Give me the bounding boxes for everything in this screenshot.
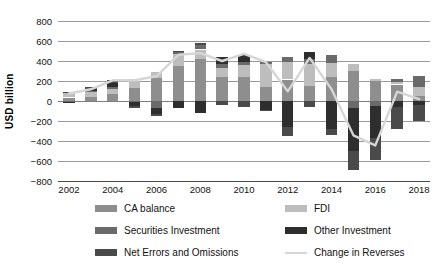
bar-column[interactable]	[216, 21, 227, 181]
bar-column[interactable]	[173, 21, 184, 181]
legend-item-sec[interactable]: Securities Investment	[95, 225, 220, 236]
bar-segment	[63, 92, 74, 93]
y-tick-label: −200	[6, 116, 52, 127]
y-tick-label: 400	[6, 56, 52, 67]
bar-segment	[85, 97, 96, 101]
chart-legend: CA balanceFDISecurities InvestmentOther …	[95, 203, 425, 265]
bar-segment	[216, 64, 227, 68]
bar-segment	[348, 71, 359, 101]
bar-column[interactable]	[129, 21, 140, 181]
x-tick-label: 2014	[321, 184, 342, 195]
bar-segment	[173, 54, 184, 66]
y-tick-label: 800	[6, 16, 52, 27]
bar-segment	[195, 50, 206, 59]
legend-item-res[interactable]: Change in Reverses	[285, 247, 405, 258]
bar-column[interactable]	[195, 21, 206, 181]
bar-column[interactable]	[85, 21, 96, 181]
x-axis-line	[58, 181, 430, 182]
legend-item-oth[interactable]: Other Investment	[285, 225, 391, 236]
bar-segment	[216, 68, 227, 77]
bar-segment	[282, 80, 293, 102]
legend-swatch-res	[285, 252, 307, 254]
bar-segment	[413, 87, 424, 96]
bar-segment	[129, 81, 140, 88]
bar-segment	[63, 93, 74, 98]
bar-segment	[195, 43, 206, 45]
bar-segment	[173, 51, 184, 52]
bar-segment	[304, 86, 315, 101]
bar-column[interactable]	[282, 21, 293, 181]
bar-segment	[129, 106, 140, 108]
bar-segment	[151, 114, 162, 115]
bar-segment	[260, 62, 271, 64]
bar-column[interactable]	[326, 21, 337, 181]
bar-segment	[107, 80, 118, 83]
x-tick-label: 2016	[365, 184, 386, 195]
legend-label: Net Errors and Omissions	[124, 247, 238, 258]
x-axis-tick-labels: 200220042006200820102012201420162018	[58, 184, 430, 200]
bar-segment	[326, 77, 337, 101]
bar-segment	[129, 88, 140, 101]
legend-item-neo[interactable]: Net Errors and Omissions	[95, 247, 238, 258]
bar-segment	[326, 101, 337, 129]
chart-root: USD billion 8006004002000−200−400−600−80…	[0, 0, 435, 280]
bar-column[interactable]	[413, 21, 424, 181]
bar-column[interactable]	[63, 21, 74, 181]
bar-column[interactable]	[370, 21, 381, 181]
bar-segment	[151, 108, 162, 115]
legend-label: Other Investment	[314, 225, 391, 236]
y-axis-tick-labels: 8006004002000−200−400−600−800	[6, 21, 52, 181]
legend-label: FDI	[314, 203, 330, 214]
bar-segment	[304, 64, 315, 86]
bar-column[interactable]	[107, 21, 118, 181]
bar-segment	[260, 101, 271, 110]
bar-segment	[107, 94, 118, 101]
bar-segment	[282, 127, 293, 136]
bar-series-group	[58, 21, 430, 181]
bar-segment	[173, 52, 184, 54]
bar-segment	[195, 101, 206, 113]
x-tick-label: 2004	[102, 184, 123, 195]
bar-segment	[216, 77, 227, 101]
bar-segment	[348, 151, 359, 170]
bar-column[interactable]	[304, 21, 315, 181]
bar-segment	[151, 78, 162, 101]
bar-segment	[238, 55, 249, 62]
bar-segment	[238, 101, 249, 107]
bar-segment	[107, 83, 118, 87]
x-tick-label: 2012	[277, 184, 298, 195]
y-tick-label: 0	[6, 96, 52, 107]
bar-column[interactable]	[238, 21, 249, 181]
legend-label: CA balance	[124, 203, 175, 214]
bar-column[interactable]	[391, 21, 402, 181]
bar-segment	[304, 101, 315, 107]
bar-segment	[282, 57, 293, 62]
bar-segment	[282, 101, 293, 127]
bar-segment	[85, 89, 96, 91]
legend-swatch-ca	[95, 205, 117, 212]
bar-column[interactable]	[151, 21, 162, 181]
bar-segment	[260, 64, 271, 87]
plot-area	[58, 21, 430, 181]
bar-segment	[370, 81, 381, 101]
legend-item-fdi[interactable]: FDI	[285, 203, 330, 214]
bar-segment	[348, 101, 359, 108]
legend-label: Change in Reverses	[314, 247, 405, 258]
legend-item-ca[interactable]: CA balance	[95, 203, 175, 214]
bar-column[interactable]	[260, 21, 271, 181]
bar-segment	[216, 101, 227, 105]
bar-segment	[391, 85, 402, 102]
bar-segment	[413, 105, 424, 121]
bar-column[interactable]	[348, 21, 359, 181]
bar-segment	[348, 64, 359, 71]
x-tick-label: 2010	[233, 184, 254, 195]
bar-segment	[391, 79, 402, 82]
legend-swatch-fdi	[285, 205, 307, 212]
bar-segment	[85, 91, 96, 92]
bar-segment	[326, 63, 337, 78]
x-tick-label: 2006	[146, 184, 167, 195]
bar-segment	[326, 129, 337, 136]
bar-segment	[282, 62, 293, 80]
bar-segment	[107, 87, 118, 89]
y-tick-label: −600	[6, 156, 52, 167]
